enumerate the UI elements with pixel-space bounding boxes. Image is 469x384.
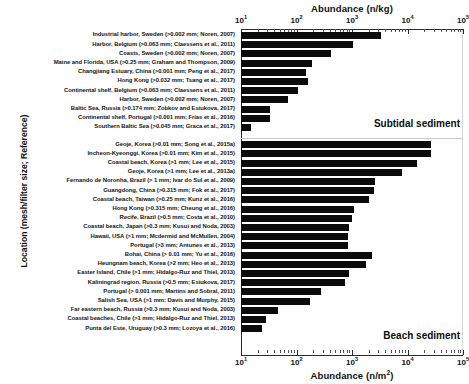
axis-tick-label: 101: [235, 356, 247, 367]
bar-row: [241, 96, 463, 103]
bar-row: [241, 261, 463, 268]
category-label: Hawaii, USA (>1 mm; Mcdermid and McMulle…: [90, 233, 235, 239]
bar-row: [241, 178, 463, 185]
category-label: Harbor, Belgium (>0.063 mm; Claessens et…: [92, 41, 235, 47]
bar-row: [241, 307, 463, 314]
axis-tick-label: 103: [346, 356, 358, 367]
bar-row: [241, 60, 463, 67]
bar-row: [241, 288, 463, 295]
bar-series: [241, 30, 463, 355]
bar: [241, 196, 369, 203]
bar: [241, 261, 366, 268]
bar-row: [241, 224, 463, 231]
category-label: Incheon-Kyeonggi, Korea (>0.01 mm; Kim e…: [88, 150, 236, 156]
category-labels: Industrial harbor, Sweden (>0.002 mm; No…: [0, 30, 238, 355]
category-label: Coastal beach, Korea (>1 mm; Lee et al.,…: [108, 159, 235, 165]
top-axis-title-text: Abundance (n/kg): [311, 3, 393, 14]
bar: [241, 252, 372, 259]
bar: [241, 87, 298, 94]
bar-row: [241, 187, 463, 194]
axis-tick-label: 105: [457, 356, 469, 367]
category-label: Hong Kong (>0.032 mm; Tsang et al., 2017…: [118, 77, 235, 83]
category-label: Southern Baltic Sea (>0.045 mm; Graca et…: [94, 123, 235, 129]
category-label: Continental shelf, Belgium (>0.063 mm; C…: [64, 87, 235, 93]
bar-row: [241, 316, 463, 323]
category-label: Salish Sea, USA (>1 mm; Davis and Murphy…: [98, 297, 235, 303]
bar: [241, 106, 270, 113]
axis-tick-label: 102: [290, 14, 302, 25]
bar: [241, 325, 262, 332]
bar: [241, 242, 348, 249]
bar: [241, 69, 306, 76]
category-label: Heungnam beach, Korea (>2 mm; Heo et al.…: [98, 260, 235, 266]
category-label: Punta del Este, Uruguay (>0.3 mm; Lozoya…: [85, 325, 235, 331]
bar: [241, 32, 381, 39]
bar: [241, 96, 288, 103]
category-label: Geoje, Korea (>1 mm; Lee et al., 2013a): [128, 168, 235, 174]
bar: [241, 169, 402, 176]
bar: [241, 288, 321, 295]
bar: [241, 215, 352, 222]
category-label: Portugal (> 0.001 mm; Martins and Sobral…: [103, 288, 235, 294]
bar: [241, 233, 348, 240]
bar: [241, 50, 331, 57]
bar-row: [241, 196, 463, 203]
bottom-axis-tick-labels: 101102103104105: [241, 356, 463, 368]
bar: [241, 270, 349, 277]
bar-row: [241, 106, 463, 113]
bottom-axis-title-text: Abundance (n/m2): [241, 369, 463, 381]
category-label: Kaliningrad region, Russia (>0.5 mm; Esi…: [88, 279, 235, 285]
bar: [241, 279, 345, 286]
axis-tick-major: [463, 29, 464, 34]
category-label: Hong Kong (>0.315 mm; Cheung et al., 201…: [113, 205, 235, 211]
bar: [241, 141, 431, 148]
bar-row: [241, 50, 463, 57]
bar: [241, 115, 270, 122]
bar-row: [241, 252, 463, 259]
category-label: Geoje, Korea (>0.01 mm; Song et al., 201…: [115, 141, 235, 147]
category-label: Far eastern beach, Russia (>0.3 mm; Kusu…: [71, 306, 235, 312]
bar-row: [241, 87, 463, 94]
category-label: Recife, Brazil (>0.5 mm; Costa et al., 2…: [120, 214, 236, 220]
axis-tick-label: 105: [457, 14, 469, 25]
bar: [241, 298, 310, 305]
category-label: Bohai, China (> 0.01 mm; Yu et al., 2016…: [125, 251, 235, 257]
bar-row: [241, 160, 463, 167]
bar: [241, 78, 308, 85]
category-label: Coastal beach, Japan (>0.3 mm; Kusui and…: [83, 223, 235, 229]
bar-row: [241, 141, 463, 148]
category-label: Portugal (>3 mm; Antunes et al., 2013): [130, 242, 235, 248]
bar-row: [241, 150, 463, 157]
category-label: Harbor, Sweden (>0.002 mm; Noren, 2007): [120, 96, 235, 102]
category-label: Changjiang Estuary, China (>0.001 mm; Pe…: [78, 68, 235, 74]
bar: [241, 60, 312, 67]
top-axis-title: Abundance (n/kg): [241, 3, 463, 14]
category-label: Easter Island, Chile (>1 mm; Hidalgo-Ruz…: [77, 269, 235, 275]
bar: [241, 206, 354, 213]
category-label: Coastal beaches, Chile (>1 mm; Hidalgo-R…: [68, 315, 235, 321]
bar: [241, 124, 251, 131]
axis-tick-label: 104: [401, 356, 413, 367]
bar: [241, 316, 266, 323]
bar-row: [241, 233, 463, 240]
bar: [241, 160, 417, 167]
bar-row: [241, 279, 463, 286]
category-label: Coastal beach, Taiwan (>0.25 mm; Kunz et…: [93, 196, 235, 202]
bar-row: [241, 41, 463, 48]
axis-tick-major: [463, 350, 464, 355]
bar-row: [241, 169, 463, 176]
axis-tick-label: 104: [401, 14, 413, 25]
axis-tick-label: 103: [346, 14, 358, 25]
bar: [241, 150, 431, 157]
bar-row: [241, 69, 463, 76]
bar: [241, 224, 349, 231]
bar-row: [241, 206, 463, 213]
axis-tick-label: 101: [235, 14, 247, 25]
bar-row: [241, 298, 463, 305]
bar: [241, 307, 278, 314]
bar-row: [241, 78, 463, 85]
category-label: Maine and Florida, USA (>0.25 mm; Graham…: [54, 59, 235, 65]
top-axis-tick-labels: 101102103104105: [241, 14, 463, 26]
category-label: Coasts, Sweden (>0.002 mm; Noren, 2007): [119, 50, 235, 56]
